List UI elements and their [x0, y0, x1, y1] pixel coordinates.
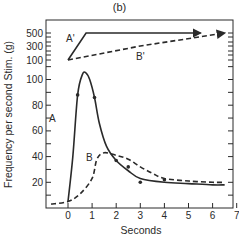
- axis-ticks: 0123456710080604020500300100: [26, 28, 239, 222]
- series-b-line: [51, 153, 225, 205]
- chart: (b) Frequency per second Stim. (g) Secon…: [0, 0, 239, 240]
- x-tick-label: 5: [186, 210, 192, 221]
- x-tick-label: 2: [113, 210, 119, 221]
- x-tick-label: 1: [89, 210, 95, 221]
- y-tick-label: 60: [32, 125, 44, 136]
- inline-labels: A' B' A B: [49, 33, 145, 163]
- y-tick-label-upper: 500: [26, 28, 43, 39]
- label-b: B: [86, 152, 93, 163]
- label-a: A: [49, 113, 56, 124]
- data-point-marker: [93, 96, 97, 100]
- plot-area: 0123456710080604020500300100 A' B' A B: [0, 0, 239, 240]
- x-tick-label: 4: [162, 210, 168, 221]
- label-a-prime: A': [66, 33, 75, 44]
- x-tick-label: 0: [65, 210, 71, 221]
- series-b-prime-line: [68, 33, 225, 60]
- data-point-marker: [76, 93, 80, 97]
- data-point-marker: [114, 159, 118, 163]
- y-tick-label: 80: [32, 100, 44, 111]
- label-b-prime: B': [136, 51, 145, 62]
- x-tick-label: 7: [234, 210, 239, 221]
- x-tick-label: 3: [138, 210, 144, 221]
- y-tick-label-upper: 100: [26, 55, 43, 66]
- x-tick-label: 6: [210, 210, 216, 221]
- y-tick-label-upper: 300: [26, 41, 43, 52]
- plot-frame: [46, 20, 233, 208]
- y-tick-label: 40: [32, 151, 44, 162]
- data-point-marker: [139, 181, 143, 185]
- data-point-marker: [126, 165, 130, 169]
- y-tick-label: 20: [32, 177, 44, 188]
- y-tick-label: 100: [26, 74, 43, 85]
